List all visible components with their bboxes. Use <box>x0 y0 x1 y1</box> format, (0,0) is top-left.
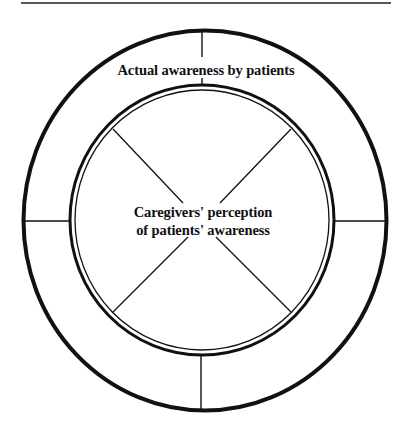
inner-divider-bottom-right <box>216 237 291 312</box>
inner-divider-top-left <box>113 129 183 203</box>
outer-ring-label: Actual awareness by patients <box>0 61 412 79</box>
inner-circle-label: Caregivers' perception of patients' awar… <box>0 203 406 239</box>
inner-divider-bottom-left <box>113 237 188 312</box>
inner-circle-label-line2: of patients' awareness <box>0 221 406 239</box>
inner-circle-label-line1: Caregivers' perception <box>0 203 406 221</box>
inner-divider-top-right <box>220 129 291 203</box>
